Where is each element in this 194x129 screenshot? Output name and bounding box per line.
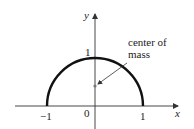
semicircle-diagram: y x 1 −1 0 1 center of mass [0, 0, 194, 129]
x-axis-label: x [174, 107, 180, 119]
annotation-text-line1: center of [128, 36, 167, 48]
y-axis-label: y [83, 9, 89, 21]
x-tick-0: 0 [84, 107, 90, 119]
center-of-mass-point [93, 84, 96, 87]
annotation-arrow [98, 63, 127, 84]
x-tick-neg1: −1 [40, 110, 52, 122]
annotation-text-line2: mass [128, 48, 150, 60]
y-tick-1: 1 [85, 46, 91, 58]
x-tick-1: 1 [140, 110, 146, 122]
diagram-canvas: y x 1 −1 0 1 center of mass [0, 0, 194, 129]
